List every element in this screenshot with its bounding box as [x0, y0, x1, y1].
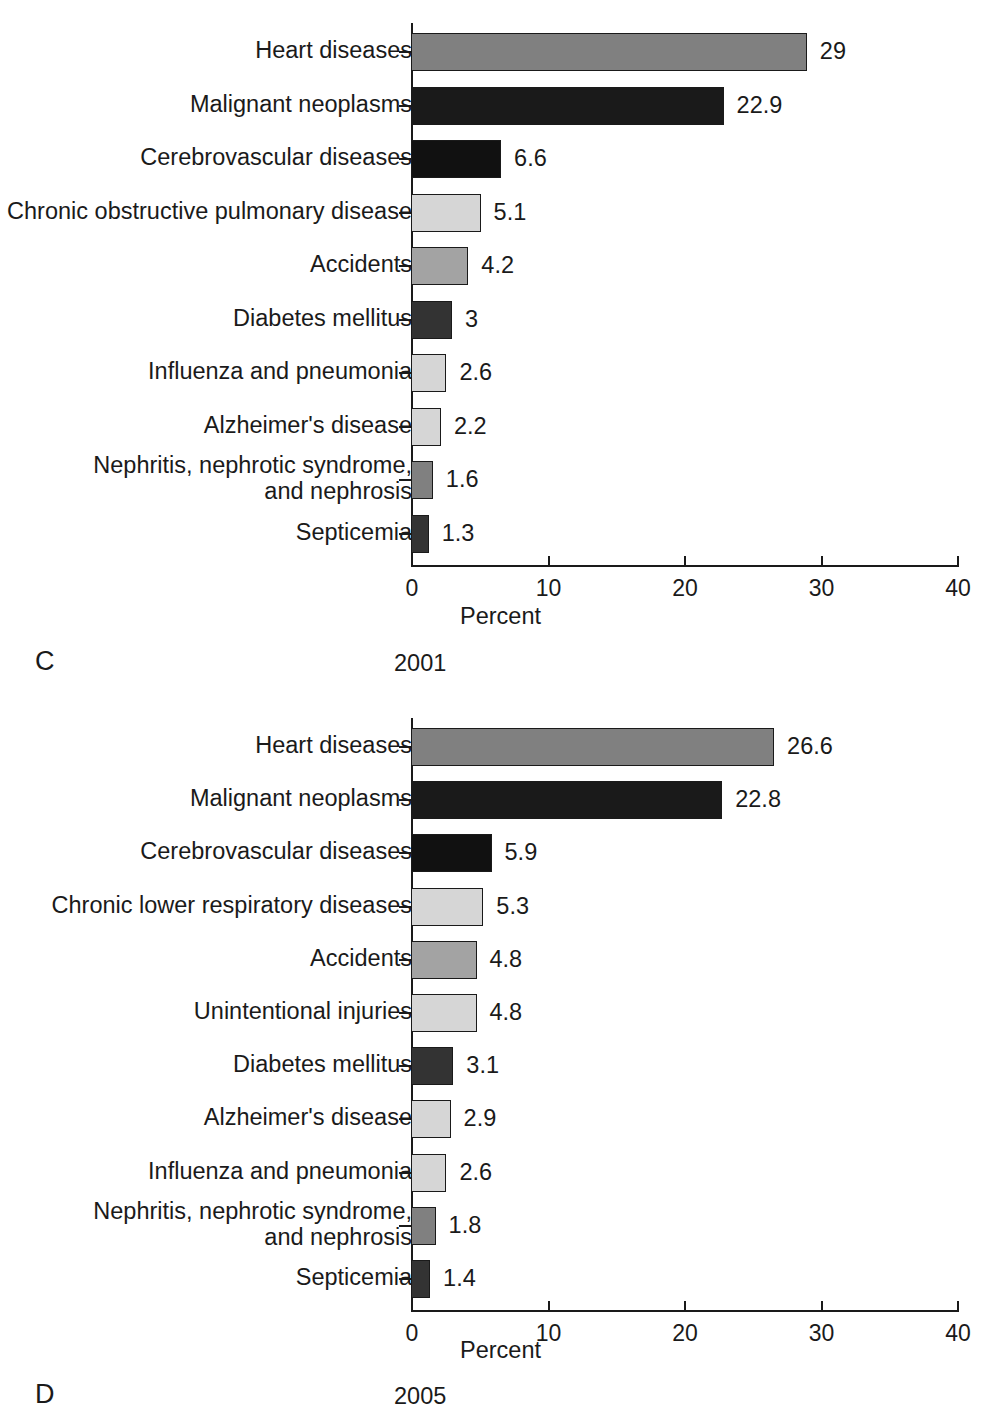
x-axis-tick-label: 40 — [928, 577, 988, 600]
x-axis-tick — [957, 1301, 959, 1310]
bar-value-label: 2.6 — [459, 361, 492, 385]
bar-value-label: 2.6 — [459, 1161, 492, 1185]
x-axis-line — [411, 1310, 959, 1312]
bar-value-label: 29 — [820, 40, 846, 64]
bar-value-label: 3 — [465, 308, 478, 332]
bar[interactable] — [411, 781, 722, 819]
panel-d: 010203040Heart diseases26.6Malignant neo… — [0, 700, 1001, 1423]
bar[interactable] — [411, 515, 429, 553]
category-label: Unintentional injuries — [194, 998, 412, 1024]
bar-value-label: 4.8 — [490, 948, 523, 972]
category-label: Cerebrovascular diseases — [140, 144, 412, 170]
bar-value-label: 1.4 — [443, 1267, 476, 1291]
bar-value-label: 4.8 — [490, 1001, 523, 1025]
x-axis-tick — [548, 556, 550, 565]
panel-c-year: 2001 — [394, 650, 446, 677]
x-axis-tick-label: 0 — [382, 577, 442, 600]
bar[interactable] — [411, 834, 492, 872]
chart-d-xaxis-title: Percent — [0, 1337, 1001, 1364]
category-label: Malignant neoplasms — [190, 91, 412, 117]
bar-value-label: 22.9 — [737, 94, 783, 118]
bar[interactable] — [411, 1260, 430, 1298]
x-axis-tick — [821, 1301, 823, 1310]
bar[interactable] — [411, 1047, 453, 1085]
category-label: Cerebrovascular diseases — [140, 838, 412, 864]
bar[interactable] — [411, 1154, 446, 1192]
category-label: Accidents — [310, 251, 412, 277]
x-axis-tick-label: 10 — [519, 577, 579, 600]
category-label: Chronic obstructive pulmonary disease — [7, 198, 412, 224]
category-label: Nephritis, nephrotic syndrome, and nephr… — [93, 452, 412, 504]
bar-value-label: 5.3 — [496, 895, 529, 919]
x-axis-tick — [411, 556, 413, 565]
bar[interactable] — [411, 301, 452, 339]
panel-d-letter: D — [35, 1379, 55, 1410]
bar-value-label: 1.3 — [442, 522, 475, 546]
bar[interactable] — [411, 941, 477, 979]
bar-value-label: 2.2 — [454, 415, 487, 439]
bar[interactable] — [411, 87, 724, 125]
x-axis-line — [411, 565, 959, 567]
category-label: Alzheimer's disease — [204, 412, 412, 438]
category-label: Septicemia — [296, 1264, 412, 1290]
panel-c-letter: C — [35, 646, 55, 677]
category-label: Diabetes mellitus — [233, 305, 412, 331]
bar[interactable] — [411, 408, 441, 446]
bar[interactable] — [411, 140, 501, 178]
chart-c-xaxis-title: Percent — [0, 603, 1001, 630]
category-label: Influenza and pneumonia — [148, 1158, 412, 1184]
bar-value-label: 22.8 — [735, 788, 781, 812]
bar[interactable] — [411, 1207, 436, 1245]
bar-value-label: 3.1 — [466, 1054, 499, 1078]
bar-value-label: 6.6 — [514, 147, 547, 171]
category-label: Chronic lower respiratory diseases — [52, 892, 412, 918]
x-axis-tick — [684, 1301, 686, 1310]
panel-c: 010203040Heart diseases29Malignant neopl… — [0, 0, 1001, 700]
bar[interactable] — [411, 994, 477, 1032]
x-axis-tick-label: 20 — [655, 577, 715, 600]
bar-value-label: 1.6 — [446, 468, 479, 492]
bar[interactable] — [411, 354, 446, 392]
category-label: Malignant neoplasms — [190, 785, 412, 811]
bar-value-label: 1.8 — [449, 1214, 482, 1238]
bar-value-label: 4.2 — [481, 254, 514, 278]
category-label: Septicemia — [296, 519, 412, 545]
category-label: Alzheimer's disease — [204, 1104, 412, 1130]
bar[interactable] — [411, 1100, 451, 1138]
x-axis-tick — [684, 556, 686, 565]
category-label: Nephritis, nephrotic syndrome, and nephr… — [93, 1198, 412, 1250]
category-label: Influenza and pneumonia — [148, 358, 412, 384]
category-label: Heart diseases — [255, 732, 412, 758]
category-label: Accidents — [310, 945, 412, 971]
panel-d-year: 2005 — [394, 1383, 446, 1410]
bar-value-label: 2.9 — [464, 1107, 497, 1131]
category-label: Diabetes mellitus — [233, 1051, 412, 1077]
x-axis-tick — [411, 1301, 413, 1310]
bar[interactable] — [411, 247, 468, 285]
bar[interactable] — [411, 33, 807, 71]
bar[interactable] — [411, 461, 433, 499]
x-axis-tick — [821, 556, 823, 565]
x-axis-tick — [957, 556, 959, 565]
bar-value-label: 5.9 — [505, 841, 538, 865]
x-axis-tick — [548, 1301, 550, 1310]
bar[interactable] — [411, 194, 481, 232]
category-label: Heart diseases — [255, 37, 412, 63]
bar-value-label: 5.1 — [494, 201, 527, 225]
bar-value-label: 26.6 — [787, 735, 833, 759]
x-axis-tick-label: 30 — [792, 577, 852, 600]
bar[interactable] — [411, 728, 774, 766]
bar[interactable] — [411, 888, 483, 926]
